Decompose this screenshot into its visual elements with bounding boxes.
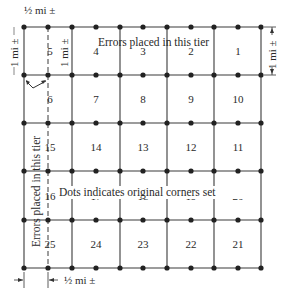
corner-dot	[188, 217, 193, 222]
section-number: 5	[47, 45, 53, 57]
corner-dot	[258, 265, 263, 270]
corner-dot	[140, 217, 145, 222]
corner-dot	[69, 72, 74, 77]
corner-dot	[235, 168, 240, 173]
one-mile-inner-label: 1 mi ±	[58, 38, 70, 67]
corner-dot	[93, 72, 98, 77]
section-number: 21	[233, 238, 244, 250]
corner-dot	[45, 265, 50, 270]
corner-dot	[93, 168, 98, 173]
one-mile-left-label: 1 mi ±	[8, 38, 20, 67]
corner-dot	[188, 72, 193, 77]
township-diagram: 5432167891015141312111617181920252423222…	[0, 0, 292, 299]
corner-dot	[69, 168, 74, 173]
corner-dot	[117, 168, 122, 173]
section-number: 22	[186, 238, 197, 250]
corner-dot	[93, 120, 98, 125]
corner-dot	[117, 24, 122, 29]
section-number: 24	[91, 238, 103, 250]
top-tier-errors-label: Errors placed in this tier	[98, 36, 209, 49]
section-number: 14	[91, 141, 103, 153]
corner-dot	[21, 24, 26, 29]
section-number: 13	[138, 141, 150, 153]
corner-dot	[140, 168, 145, 173]
arrow-left-icon	[49, 278, 54, 282]
corner-dot	[258, 217, 263, 222]
section-number: 11	[233, 141, 244, 153]
corner-dot	[258, 72, 263, 77]
section-number: 23	[138, 238, 150, 250]
section-number: 8	[140, 93, 146, 105]
corner-dot	[164, 265, 169, 270]
section-number: 25	[45, 238, 57, 250]
corner-dot	[211, 120, 216, 125]
section-number: 7	[93, 93, 99, 105]
corner-dot	[21, 72, 26, 77]
arrow-right-icon	[18, 278, 23, 282]
half-mile-bottom-label: ½ mi ±	[64, 274, 95, 286]
corner-dot	[164, 24, 169, 29]
corner-dot	[45, 168, 50, 173]
corner-dot	[45, 72, 50, 77]
corner-dot	[188, 168, 193, 173]
dots-note-label: Dots indicates original corners set	[59, 186, 216, 199]
corner-dot	[93, 217, 98, 222]
half-mile-top-label: ½ mi ±	[24, 4, 55, 16]
corner-dot	[164, 72, 169, 77]
corner-dot	[21, 168, 26, 173]
corner-dot	[117, 120, 122, 125]
corner-dot	[140, 24, 145, 29]
corner-dot	[258, 24, 263, 29]
corner-dot	[69, 265, 74, 270]
corner-dot	[140, 265, 145, 270]
corner-dot	[93, 265, 98, 270]
corner-dot	[235, 120, 240, 125]
corner-dot	[164, 120, 169, 125]
corner-dot	[258, 168, 263, 173]
corner-dot	[117, 217, 122, 222]
corner-dot	[211, 265, 216, 270]
corner-dot	[117, 265, 122, 270]
corner-dot	[188, 265, 193, 270]
corner-dot	[140, 72, 145, 77]
section-number: 6	[47, 93, 53, 105]
section-number: 16	[45, 190, 57, 202]
corner-dot	[188, 120, 193, 125]
corner-dot	[211, 168, 216, 173]
corner-dot	[164, 217, 169, 222]
section-number: 10	[233, 93, 245, 105]
corner-dot	[69, 120, 74, 125]
corner-dot	[211, 72, 216, 77]
section-number: 15	[45, 141, 57, 153]
section-number: 12	[186, 141, 197, 153]
section-number: 1	[235, 45, 241, 57]
corner-dot	[235, 217, 240, 222]
corner-dot	[211, 24, 216, 29]
corner-dot	[188, 24, 193, 29]
corner-dot	[211, 217, 216, 222]
corner-dot	[21, 120, 26, 125]
corner-dot	[235, 24, 240, 29]
left-tier-errors-label: Errors placed in this tier	[30, 136, 43, 247]
corner-dot	[140, 120, 145, 125]
corner-dot	[235, 265, 240, 270]
corner-dot	[235, 72, 240, 77]
section-number: 9	[188, 93, 194, 105]
corner-dot	[21, 217, 26, 222]
arrow-up-icon	[270, 28, 274, 33]
corner-dot	[69, 24, 74, 29]
corner-dot	[258, 120, 263, 125]
corner-dot	[93, 24, 98, 29]
corner-dot	[69, 217, 74, 222]
corner-dot	[45, 24, 50, 29]
corner-dot	[164, 168, 169, 173]
corner-dot	[21, 265, 26, 270]
corner-dot	[45, 217, 50, 222]
corner-dot	[117, 72, 122, 77]
one-mile-right-label: 1 mi ±	[266, 40, 278, 69]
corner-dot	[45, 120, 50, 125]
